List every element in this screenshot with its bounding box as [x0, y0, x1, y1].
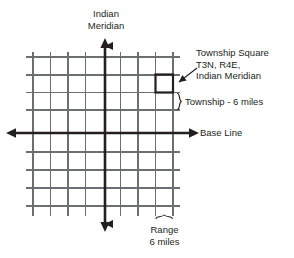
base-line-label: Base Line [200, 127, 242, 139]
meridian-arrowhead-top [100, 38, 109, 48]
curly-brace-icon [178, 94, 182, 110]
meridian-label-line2: Meridian [73, 20, 139, 32]
callout-arrow-icon [179, 68, 197, 82]
township-square-callout-label: Township Square T3N, R4E, Indian Meridia… [196, 47, 269, 82]
township-range-diagram: Indian Meridian Base Line Township Squar… [0, 0, 294, 258]
base-line-arrowhead-right [189, 128, 199, 137]
township-square-label-line3: Indian Meridian [196, 70, 269, 82]
range-label: Range 6 miles [132, 224, 197, 247]
horizontal-brace-icon [156, 215, 172, 219]
township-square-label-line1: Township Square [196, 47, 269, 59]
base-line-arrowhead-left [6, 128, 16, 137]
diagram-canvas [0, 0, 294, 258]
township-square-highlight[interactable] [156, 75, 174, 93]
range-label-line1: Range [132, 224, 197, 236]
meridian-label: Indian Meridian [73, 8, 139, 31]
township-size-label: Township - 6 miles [185, 96, 263, 108]
township-square-label-line2: T3N, R4E, [196, 59, 269, 71]
meridian-label-line1: Indian [73, 8, 139, 20]
range-label-line2: 6 miles [132, 236, 197, 248]
meridian-arrowhead-bottom [100, 222, 109, 232]
